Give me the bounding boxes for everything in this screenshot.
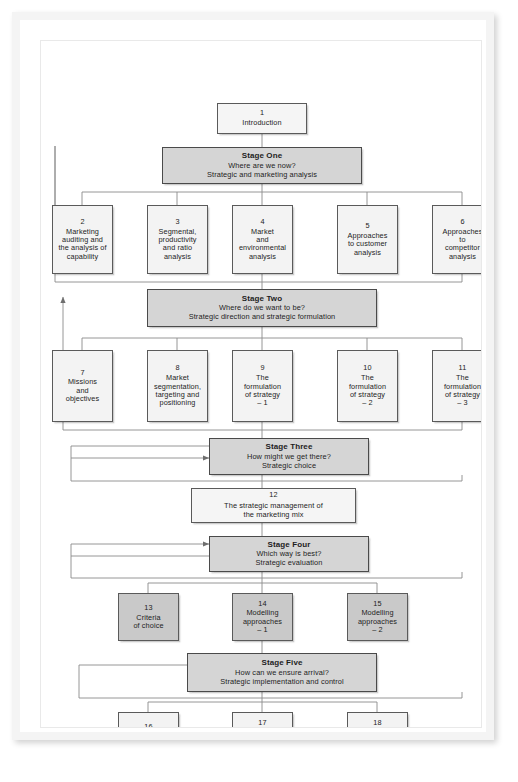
node-text: The strategic management of the marketin… bbox=[224, 501, 323, 520]
node-text: The formulation of strategy – 2 bbox=[349, 374, 386, 407]
stage-four-banner[interactable]: Stage Four Which way is best? Strategic … bbox=[209, 536, 369, 572]
stage-subtitle: Where are we now? Strategic and marketin… bbox=[207, 162, 317, 180]
node-text: Marketing auditing and the analysis of c… bbox=[58, 228, 106, 261]
node-9-formulation-strategy-1[interactable]: 9 The formulation of strategy – 1 bbox=[232, 350, 293, 422]
node-2-marketing-auditing[interactable]: 2 Marketing auditing and the analysis of… bbox=[52, 205, 113, 274]
node-text: Approaches to competitor analysis bbox=[443, 228, 482, 261]
node-8-market-segmentation[interactable]: 8 Market segmentation, targeting and pos… bbox=[147, 350, 208, 422]
stage-title: Stage Three bbox=[266, 442, 313, 451]
node-number: 8 bbox=[175, 364, 179, 372]
node-13-criteria-of-choice[interactable]: 13 Criteria of choice bbox=[118, 593, 179, 641]
stage-title: Stage Five bbox=[261, 658, 302, 667]
node-17-management-control-1[interactable]: 17 Management control – 1 bbox=[232, 712, 293, 728]
node-6-approaches-competitor[interactable]: 6 Approaches to competitor analysis bbox=[432, 205, 482, 274]
node-4-market-environmental[interactable]: 4 Market and environmental analysis bbox=[232, 205, 293, 274]
stage-subtitle: Where do we want to be? Strategic direct… bbox=[189, 304, 336, 322]
node-number: 9 bbox=[260, 364, 264, 372]
node-number: 14 bbox=[258, 600, 266, 608]
page-inner: 1 Introduction Stage One Where are we no… bbox=[40, 40, 482, 728]
node-number: 10 bbox=[363, 364, 371, 372]
node-text: Criteria of choice bbox=[133, 614, 163, 631]
node-1-introduction[interactable]: 1 Introduction bbox=[217, 103, 307, 134]
node-text: Segmental, productivity and ratio analys… bbox=[158, 228, 196, 261]
node-15-modelling-approaches-2[interactable]: 15 Modelling approaches – 2 bbox=[347, 593, 408, 641]
node-number: 3 bbox=[175, 218, 179, 226]
node-text: Missions and objectives bbox=[66, 378, 99, 403]
stage-one-banner[interactable]: Stage One Where are we now? Strategic an… bbox=[162, 147, 362, 184]
node-number: 7 bbox=[80, 369, 84, 377]
stage-subtitle: Which way is best? Strategic evaluation bbox=[256, 550, 323, 568]
node-text: Modelling approaches – 1 bbox=[243, 609, 282, 634]
node-11-formulation-strategy-3[interactable]: 11 The formulation of strategy – 3 bbox=[432, 350, 482, 422]
node-12-strategic-management-marketing-mix[interactable]: 12 The strategic management of the marke… bbox=[191, 488, 356, 523]
node-text: The formulation of strategy – 3 bbox=[444, 374, 481, 407]
node-number: 11 bbox=[459, 364, 467, 372]
node-number: 12 bbox=[269, 491, 277, 499]
node-18-management-control-2[interactable]: 18 Management control – 2 bbox=[347, 712, 408, 728]
node-number: 15 bbox=[373, 600, 381, 608]
stage-subtitle: How might we get there? Strategic choice bbox=[247, 453, 331, 471]
node-number: 18 bbox=[373, 719, 381, 727]
node-number: 17 bbox=[258, 719, 266, 727]
node-14-modelling-approaches-1[interactable]: 14 Modelling approaches – 1 bbox=[232, 593, 293, 641]
node-text: Market and environmental analysis bbox=[239, 228, 286, 261]
strategic-marketing-flowchart: 1 Introduction Stage One Where are we no… bbox=[41, 41, 482, 728]
stage-title: Stage Two bbox=[242, 294, 282, 303]
node-5-approaches-customer[interactable]: 5 Approaches to customer analysis bbox=[337, 205, 398, 274]
node-text: The formulation of strategy – 1 bbox=[244, 374, 281, 407]
node-number: 1 bbox=[260, 109, 264, 117]
node-number: 16 bbox=[144, 723, 152, 728]
node-number: 5 bbox=[365, 222, 369, 230]
page-sheet: 1 Introduction Stage One Where are we no… bbox=[12, 12, 494, 740]
stage-two-banner[interactable]: Stage Two Where do we want to be? Strate… bbox=[147, 289, 377, 327]
stage-title: Stage Four bbox=[268, 540, 311, 549]
node-number: 6 bbox=[460, 218, 464, 226]
node-number: 13 bbox=[144, 604, 152, 612]
stage-title: Stage One bbox=[242, 151, 282, 160]
node-10-formulation-strategy-2[interactable]: 10 The formulation of strategy – 2 bbox=[337, 350, 398, 422]
node-text: Market segmentation, targeting and posit… bbox=[154, 374, 201, 407]
node-7-missions-objectives[interactable]: 7 Missions and objectives bbox=[52, 350, 113, 422]
stage-five-banner[interactable]: Stage Five How can we ensure arrival? St… bbox=[187, 653, 377, 692]
stage-three-banner[interactable]: Stage Three How might we get there? Stra… bbox=[209, 438, 369, 475]
node-number: 2 bbox=[80, 218, 84, 226]
node-16-problems-to-overcome[interactable]: 16 Problems to overcome bbox=[118, 712, 179, 728]
node-text: Approaches to customer analysis bbox=[348, 232, 388, 257]
stage-subtitle: How can we ensure arrival? Strategic imp… bbox=[220, 669, 344, 687]
node-text: Modelling approaches – 2 bbox=[358, 609, 397, 634]
node-number: 4 bbox=[260, 218, 264, 226]
node-3-segmental-productivity[interactable]: 3 Segmental, productivity and ratio anal… bbox=[147, 205, 208, 274]
node-text: Introduction bbox=[242, 119, 281, 127]
